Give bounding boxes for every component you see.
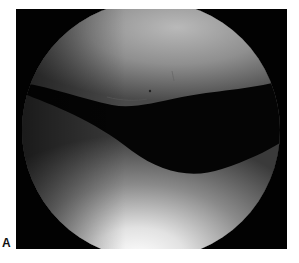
panel-label: A [2,236,11,250]
arthroscopic-view [22,9,280,249]
image-frame [16,9,287,249]
arthroscopy-scene [22,9,280,249]
